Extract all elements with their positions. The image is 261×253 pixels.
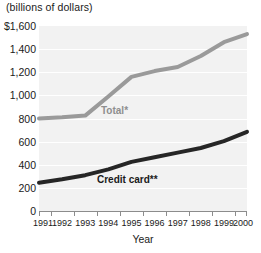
x-tick-label: 1995 [121,218,141,228]
y-tick-label: 1,400 [0,43,36,55]
x-tick-mark [74,211,75,216]
x-tick-label: 1991 [33,218,53,228]
y-tick-label: 200 [0,182,36,194]
x-tick-mark [51,211,52,216]
line-chart: (billions of dollars) Total* Credit card… [0,0,261,253]
y-tick-label: 400 [0,159,36,171]
series-label-credit-card: Credit card** [97,174,158,185]
series-line-total [39,34,247,118]
x-tick-label: 1998 [191,218,211,228]
x-tick-label: 1992 [52,218,72,228]
y-tick-label: 0 [0,205,36,217]
x-axis-ticks [39,211,247,216]
y-tick-label: 600 [0,136,36,148]
x-tick-mark [166,211,167,216]
y-tick-label: 1,200 [0,66,36,78]
x-tick-label: 1999 [214,218,234,228]
y-tick-label: 800 [0,113,36,125]
x-tick-mark [212,211,213,216]
x-axis: 1991199219931994199519961997199819992000 [39,218,247,232]
x-tick-mark [189,211,190,216]
series-label-total: Total* [101,105,128,116]
x-tick-mark [246,211,247,216]
y-tick-label: $1,600 [0,20,36,32]
x-tick-mark [39,211,40,216]
plot-area: Total* Credit card** [39,26,247,211]
x-tick-label: 1993 [75,218,95,228]
x-tick-mark [235,211,236,216]
x-tick-mark [120,211,121,216]
x-tick-label: 2000 [233,218,253,228]
x-axis-title: Year [39,233,247,245]
y-axis: $1,6001,4001,2001,0008006004002000 [0,0,36,253]
x-tick-label: 1996 [145,218,165,228]
x-tick-mark [143,211,144,216]
x-tick-mark [97,211,98,216]
x-tick-label: 1994 [98,218,118,228]
x-tick-label: 1997 [168,218,188,228]
y-tick-label: 1,000 [0,89,36,101]
